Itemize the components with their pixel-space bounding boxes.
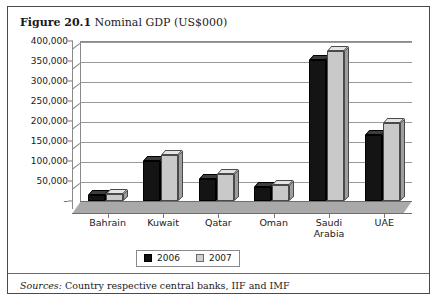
bar-2006-uae[interactable] [365, 135, 382, 201]
chart-plot-area: –50,000100,000150,000200,000250,000300,0… [20, 41, 420, 231]
legend-item-2007: 2007 [196, 253, 232, 263]
y-tick-label: 250,000 [31, 96, 68, 106]
x-tick-label: Qatar [191, 217, 246, 228]
bar-2007-kuwait[interactable] [161, 155, 178, 201]
y-tick-label: 100,000 [31, 156, 68, 166]
y-tick-label: 300,000 [31, 76, 68, 86]
bar-2006-bahrain[interactable] [88, 195, 105, 201]
y-axis-line [72, 41, 73, 209]
x-axis-labels: BahrainKuwaitQatarOmanSaudiArabiaUAE [80, 217, 412, 247]
y-tick-label: 50,000 [37, 176, 69, 186]
footer-divider [8, 273, 429, 274]
legend-swatch-2006 [144, 254, 152, 262]
bar-face [106, 194, 123, 201]
bar-group [191, 41, 246, 201]
legend-label-2007: 2007 [209, 253, 232, 263]
bar-face [272, 185, 289, 201]
bar-face [143, 161, 160, 201]
y-tick-label: 400,000 [31, 36, 68, 46]
x-tick-label: Kuwait [135, 217, 190, 228]
sources-text: Country respective central banks, IIF an… [65, 280, 290, 291]
x-tick-mark [274, 214, 275, 218]
x-tick-mark [163, 214, 164, 218]
bar-2007-bahrain[interactable] [106, 194, 123, 201]
bar-group [246, 41, 301, 201]
x-tick-mark [108, 214, 109, 218]
bar-2006-oman[interactable] [254, 187, 271, 201]
legend-swatch-2007 [196, 254, 204, 262]
bar-side-face [178, 150, 183, 201]
bar-face [254, 187, 271, 201]
figure-container: Figure 20.1 Nominal GDP (US$000) –50,000… [7, 6, 430, 294]
chart-floor-front-edge [72, 213, 412, 214]
bar-face [327, 51, 344, 201]
figure-title: Figure 20.1 Nominal GDP (US$000) [20, 16, 227, 29]
sources-note: Sources: Country respective central bank… [20, 280, 290, 291]
x-tick-label: SaudiArabia [301, 217, 356, 239]
bar-2006-qatar[interactable] [199, 179, 216, 201]
bar-face [199, 179, 216, 201]
bar-2007-qatar[interactable] [217, 174, 234, 201]
bar-face [88, 195, 105, 201]
bar-side-face [234, 169, 239, 201]
bar-side-face [400, 118, 405, 201]
bar-group [80, 41, 135, 201]
figure-number: Figure 20.1 [20, 16, 91, 29]
bar-face [383, 123, 400, 201]
sources-label: Sources: [20, 280, 62, 291]
y-axis-labels: –50,000100,000150,000200,000250,000300,0… [20, 41, 68, 201]
chart-legend: 2006 2007 [136, 250, 240, 267]
x-tick-mark [218, 214, 219, 218]
bar-group [301, 41, 356, 201]
x-tick-mark [384, 214, 385, 218]
bar-face [309, 60, 326, 201]
bar-side-face [344, 46, 349, 201]
bar-2007-uae[interactable] [383, 123, 400, 201]
bar-2006-kuwait[interactable] [143, 161, 160, 201]
figure-caption: Nominal GDP (US$000) [95, 16, 228, 29]
bar-group [357, 41, 412, 201]
y-tick-label: 350,000 [31, 56, 68, 66]
bar-face [365, 135, 382, 201]
chart-floor-back-edge [80, 201, 412, 202]
y-tick-label: 200,000 [31, 116, 68, 126]
y-tick-label: 150,000 [31, 136, 68, 146]
bar-2007-oman[interactable] [272, 185, 289, 201]
legend-label-2006: 2006 [157, 253, 180, 263]
x-tick-label: Oman [246, 217, 301, 228]
legend-item-2006: 2006 [144, 253, 180, 263]
bar-group [135, 41, 190, 201]
x-tick-mark [329, 214, 330, 218]
x-tick-label: UAE [357, 217, 412, 228]
bar-series-container [80, 41, 412, 201]
bar-2007-saudi-arabia[interactable] [327, 51, 344, 201]
bar-2006-saudi-arabia[interactable] [309, 60, 326, 201]
bar-face [161, 155, 178, 201]
bar-face [217, 174, 234, 201]
x-tick-label: Bahrain [80, 217, 135, 228]
